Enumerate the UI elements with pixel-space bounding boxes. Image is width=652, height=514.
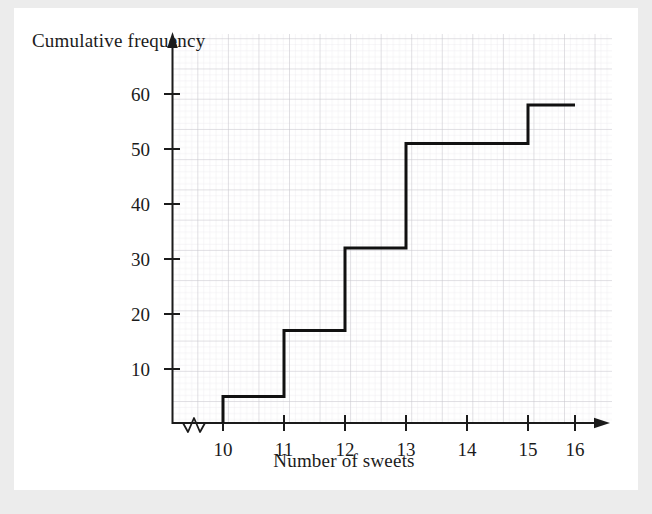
chart-svg <box>14 8 638 490</box>
x-tick-label-16: 16 <box>560 440 590 459</box>
x-tick-label-12: 12 <box>330 440 360 459</box>
x-tick-label-10: 10 <box>208 440 238 459</box>
x-tick-label-13: 13 <box>391 440 421 459</box>
y-tick-label-40: 40 <box>110 195 150 214</box>
chart-card: Cumulative frequency Number of sweets 60… <box>14 8 638 490</box>
y-axis-title: Cumulative frequency <box>32 30 162 52</box>
x-tick-label-15: 15 <box>513 440 543 459</box>
y-tick-label-30: 30 <box>110 250 150 269</box>
y-tick-label-60: 60 <box>110 85 150 104</box>
x-tick-label-14: 14 <box>452 440 482 459</box>
x-tick-label-11: 11 <box>269 440 299 459</box>
y-tick-label-10: 10 <box>110 360 150 379</box>
y-tick-label-50: 50 <box>110 140 150 159</box>
cumulative-frequency-chart: Cumulative frequency Number of sweets 60… <box>14 8 638 490</box>
y-tick-label-20: 20 <box>110 305 150 324</box>
grid-background <box>172 34 612 424</box>
